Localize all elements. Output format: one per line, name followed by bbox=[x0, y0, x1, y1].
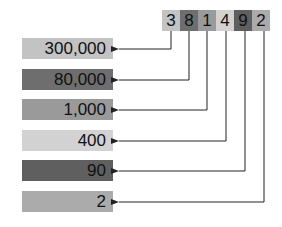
connector-arrows bbox=[0, 0, 282, 227]
arrow-icon bbox=[119, 31, 189, 80]
arrow-icon bbox=[119, 31, 207, 110]
arrow-icon bbox=[119, 31, 226, 141]
arrow-icon bbox=[119, 31, 264, 202]
arrow-icon bbox=[119, 31, 171, 49]
